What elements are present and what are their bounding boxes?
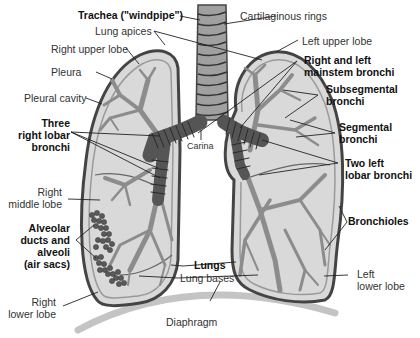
- trachea: [196, 5, 228, 120]
- label-right-middle-line2: middle lobe: [4, 198, 62, 210]
- label-two-left-line2: lobar bronchi: [345, 169, 412, 181]
- label-mainstem-bronchi: Right and left mainstem bronchi: [304, 54, 394, 78]
- label-pleura: Pleura: [51, 66, 81, 78]
- label-right-upper-lobe: Right upper lobe: [51, 43, 128, 55]
- label-pleural-cavity: Pleural cavity: [24, 92, 86, 104]
- label-three-right-lobar-bronchi: Three right lobar bronchi: [14, 117, 70, 153]
- label-diaphragm: Diaphragm: [166, 316, 217, 328]
- label-left-lower-line1: Left: [357, 268, 405, 280]
- label-mainstem-line1: Right and left: [304, 54, 394, 66]
- label-alveolar-line3: alveoli: [8, 246, 70, 258]
- label-alveolar-line4: (air sacs): [8, 258, 70, 270]
- label-alveolar-ducts: Alveolar ducts and alveoli (air sacs): [8, 222, 70, 270]
- label-segmental-line2: bronchi: [339, 133, 392, 145]
- label-subsegmental-line1: Subsegmental: [326, 83, 398, 95]
- label-lung-bases: Lung bases: [180, 272, 234, 284]
- label-trachea: Trachea ("windpipe"): [78, 9, 183, 21]
- label-bronchioles: Bronchioles: [348, 215, 409, 227]
- label-left-lower-line2: lower lobe: [357, 280, 405, 292]
- label-alveolar-line2: ducts and: [8, 234, 70, 246]
- label-subsegmental-line2: bronchi: [326, 95, 398, 107]
- label-right-middle-line1: Right: [4, 186, 62, 198]
- label-segmental-line1: Segmental: [339, 121, 392, 133]
- label-right-middle-lobe: Right middle lobe: [4, 186, 62, 210]
- label-cartilaginous-rings: Cartilaginous rings: [240, 10, 327, 22]
- label-right-lower-line2: lower lobe: [0, 308, 56, 320]
- label-carina: Carina: [187, 140, 214, 152]
- label-subsegmental-bronchi: Subsegmental bronchi: [326, 83, 398, 107]
- label-two-left-line1: Two left: [345, 157, 412, 169]
- label-right-lower-line1: Right: [0, 296, 56, 308]
- label-three-right-line3: bronchi: [14, 141, 70, 153]
- label-lungs: Lungs: [194, 259, 226, 271]
- label-three-right-line1: Three: [14, 117, 70, 129]
- label-two-left-lobar-bronchi: Two left lobar bronchi: [345, 157, 412, 181]
- label-three-right-line2: right lobar: [14, 129, 70, 141]
- label-left-upper-lobe: Left upper lobe: [302, 35, 372, 47]
- label-right-lower-lobe: Right lower lobe: [0, 296, 56, 320]
- label-lung-apices: Lung apices: [95, 25, 152, 37]
- label-alveolar-line1: Alveolar: [8, 222, 70, 234]
- label-segmental-bronchi: Segmental bronchi: [339, 121, 392, 145]
- label-left-lower-lobe: Left lower lobe: [357, 268, 405, 292]
- label-mainstem-line2: mainstem bronchi: [304, 66, 394, 78]
